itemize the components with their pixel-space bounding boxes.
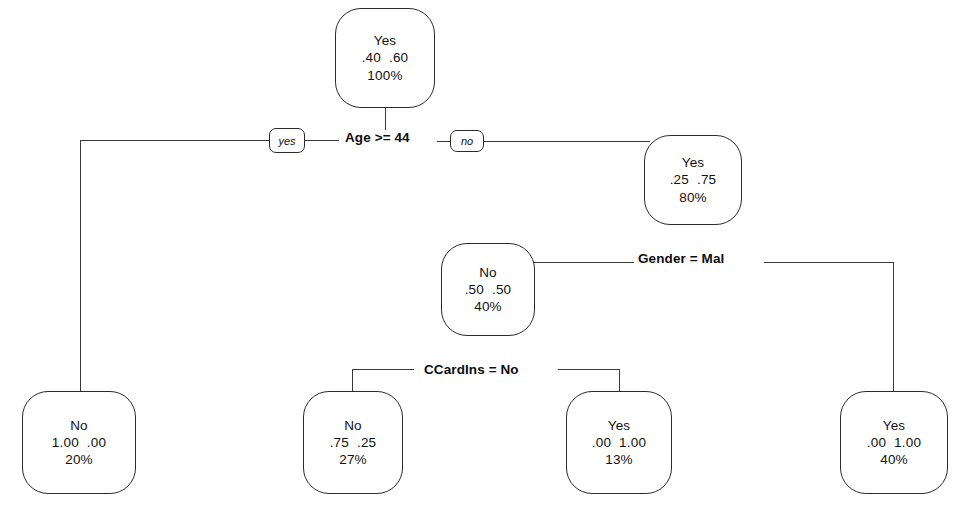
node-age-no-percent: 80% <box>679 189 707 206</box>
node-age-no-probabilities: .25 .75 <box>670 171 717 188</box>
leaf-gender-right-percent: 40% <box>880 451 908 468</box>
node-root-prediction: Yes <box>374 32 397 49</box>
edge-ccardins-right-horizontal <box>558 369 620 370</box>
leaf-ccardins-yes-probabilities: .75 .25 <box>330 434 377 451</box>
edge-age-yes-horizontal <box>80 140 270 141</box>
leaf-ccardins-no-probabilities: .00 1.00 <box>592 434 646 451</box>
edge-yes-badge-right-stub <box>305 140 339 141</box>
node-root-probabilities: .40 .60 <box>362 49 409 66</box>
edge-age-no-horizontal <box>484 141 650 142</box>
leaf-gender-right[interactable]: Yes .00 1.00 40% <box>840 391 948 494</box>
split-label-gender: Gender = Mal <box>638 251 724 266</box>
node-root-percent: 100% <box>367 67 402 84</box>
node-age-no-prediction: Yes <box>682 154 705 171</box>
node-gender-left-probabilities: .50 .50 <box>465 281 512 298</box>
node-gender-left-prediction: No <box>479 264 497 281</box>
leaf-gender-right-probabilities: .00 1.00 <box>867 434 921 451</box>
leaf-age-yes[interactable]: No 1.00 .00 20% <box>22 391 136 494</box>
leaf-gender-right-prediction: Yes <box>883 417 906 434</box>
leaf-ccardins-no[interactable]: Yes .00 1.00 13% <box>566 391 672 494</box>
split-label-ccardins: CCardIns = No <box>424 362 519 377</box>
edge-age-yes-vertical <box>80 140 81 393</box>
edge-gender-left-horizontal <box>534 262 634 263</box>
leaf-ccardins-no-prediction: Yes <box>608 417 631 434</box>
edge-gender-right-horizontal <box>764 262 894 263</box>
edge-no-badge-left-stub <box>437 141 450 142</box>
edge-badge-no[interactable]: no <box>450 130 484 152</box>
leaf-age-yes-probabilities: 1.00 .00 <box>52 434 106 451</box>
node-age-no[interactable]: Yes .25 .75 80% <box>644 135 742 225</box>
decision-tree-diagram: Yes .40 .60 100% Yes .25 .75 80% No .50 … <box>0 0 969 524</box>
leaf-age-yes-percent: 20% <box>65 451 93 468</box>
split-label-age: Age >= 44 <box>345 130 410 145</box>
leaf-ccardins-yes[interactable]: No .75 .25 27% <box>303 391 403 494</box>
leaf-ccardins-yes-prediction: No <box>344 417 362 434</box>
edge-badge-yes[interactable]: yes <box>269 128 305 153</box>
edge-root-trunk <box>385 108 386 130</box>
edge-ccardins-left-horizontal <box>352 369 414 370</box>
leaf-age-yes-prediction: No <box>70 417 88 434</box>
node-root[interactable]: Yes .40 .60 100% <box>335 8 435 108</box>
node-gender-left[interactable]: No .50 .50 40% <box>441 243 535 336</box>
node-gender-left-percent: 40% <box>474 298 502 315</box>
leaf-ccardins-no-percent: 13% <box>605 451 633 468</box>
edge-gender-right-vertical <box>893 262 894 393</box>
leaf-ccardins-yes-percent: 27% <box>339 451 367 468</box>
